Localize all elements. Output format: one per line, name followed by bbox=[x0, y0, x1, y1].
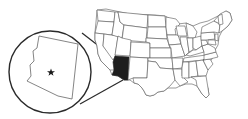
arizona-inset bbox=[9, 31, 91, 113]
washington bbox=[97, 10, 115, 22]
kansas bbox=[150, 48, 171, 58]
pennsylvania bbox=[201, 32, 215, 40]
new-jersey bbox=[215, 34, 218, 41]
wisconsin bbox=[176, 26, 187, 36]
arkansas bbox=[172, 58, 183, 69]
us-locator-map bbox=[0, 0, 248, 119]
colorado bbox=[130, 42, 150, 58]
new-mexico bbox=[128, 57, 148, 80]
vermont-nh bbox=[218, 14, 223, 25]
maryland-delaware bbox=[208, 40, 216, 45]
north-dakota bbox=[148, 15, 166, 27]
oregon bbox=[95, 21, 114, 35]
arizona-highlighted bbox=[112, 56, 129, 80]
mississippi bbox=[182, 62, 189, 78]
south-dakota bbox=[147, 27, 167, 39]
